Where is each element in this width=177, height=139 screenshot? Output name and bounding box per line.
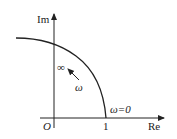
omega-label: ω [75,81,83,93]
omega-zero-label: ω=0 [110,103,131,115]
nyquist-curve [16,38,106,118]
nyquist-diagram: Im Re O 1 ω=0 ∞ ω [0,0,177,139]
origin-label: O [43,120,51,132]
x-tick-one-label: 1 [103,120,109,132]
omega-infinity-label: ∞ [57,61,65,73]
re-axis-label: Re [148,120,160,132]
im-axis-label: Im [37,13,50,25]
omega-direction-arrow [68,69,79,80]
